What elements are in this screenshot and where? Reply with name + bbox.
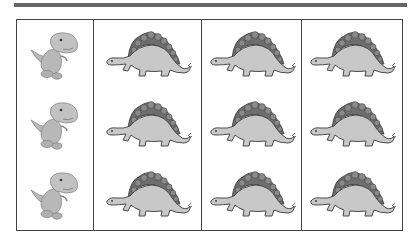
baby-trex-icon [29,100,81,150]
column-baby-dinosaurs: baby dinosaur [17,20,93,230]
top-rule [14,3,407,7]
stegosaurus-icon [208,30,296,80]
stegosaurus-icon [308,170,396,220]
stegosaurus-icon [104,170,192,220]
stegosaurus-icon [104,30,192,80]
baby-trex-icon [29,170,81,220]
stegosaurus-icon [104,100,192,150]
column-stegosaurus-2: stegosaurus [201,20,301,230]
stegosaurus-icon [308,30,396,80]
baby-trex-icon [29,30,81,80]
dinosaur-counting-grid: baby dinosaur stegosaurus stegosaurus st… [16,19,403,231]
column-stegosaurus-1: stegosaurus [93,20,201,230]
stegosaurus-icon [308,100,396,150]
stegosaurus-icon [208,100,296,150]
stegosaurus-icon [208,170,296,220]
column-stegosaurus-3: stegosaurus [301,20,402,230]
